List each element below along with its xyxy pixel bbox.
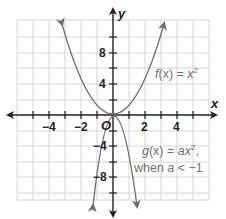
x-tick-label-neg4: −4	[42, 120, 56, 134]
y-axis-label: y	[117, 6, 126, 21]
y-tick-label-4: 4	[99, 77, 106, 91]
origin-label: O	[101, 118, 111, 133]
x-tick-label-neg2: −2	[74, 120, 88, 134]
x-axis-label: x	[210, 96, 219, 111]
y-tick-label-neg8: −8	[93, 170, 107, 184]
y-tick-label-neg4: −4	[93, 139, 107, 153]
g-function-label-line2: when a < −1	[133, 161, 203, 175]
axes	[8, 9, 216, 216]
x-tick-label-2: 2	[141, 120, 148, 134]
f-function-label: f(x) = x2	[155, 66, 199, 81]
g-function-label-line1: g(x) = ax2,	[142, 143, 199, 158]
parabola-graph: y x O −4 −2 2 4 8 4 −4 −8 f(x) = x2 g(x)…	[0, 0, 226, 219]
x-tick-label-4: 4	[173, 120, 180, 134]
y-tick-label-8: 8	[99, 46, 106, 60]
